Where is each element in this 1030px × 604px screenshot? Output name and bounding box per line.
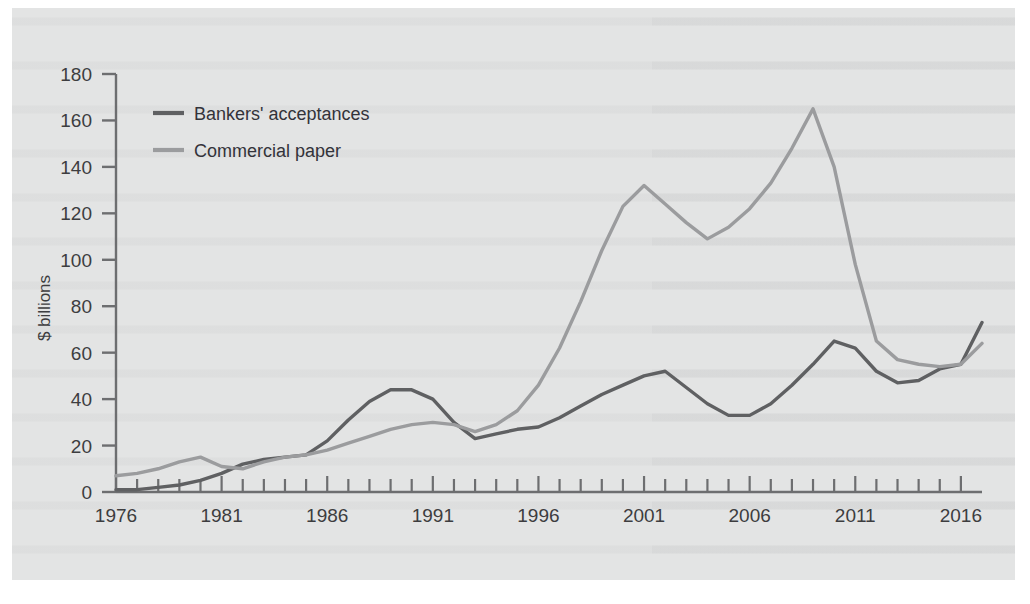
chart-panel: 020406080100120140160180 197619811986199… <box>12 8 1015 580</box>
y-tick-label: 120 <box>60 203 92 224</box>
data-series-layer <box>116 109 982 490</box>
y-tick-label: 160 <box>60 110 92 131</box>
x-tick-label: 2011 <box>835 505 876 526</box>
series-line-bankers-acceptances <box>116 322 982 489</box>
y-tick-label: 0 <box>81 482 92 503</box>
x-tick-label: 1976 <box>95 505 137 526</box>
y-axis-tick-labels: 020406080100120140160180 <box>60 64 92 503</box>
y-tick-label: 180 <box>60 64 92 85</box>
chart-legend: Bankers' acceptances Commercial paper <box>153 104 370 161</box>
x-tick-label: 2016 <box>940 505 982 526</box>
x-axis-tick-labels: 197619811986199119962001200620112016 <box>95 505 982 526</box>
y-tick-label: 100 <box>60 250 92 271</box>
y-tick-label: 20 <box>71 436 92 457</box>
y-axis-title: $ billions <box>35 275 54 341</box>
legend-label-bankers-acceptances: Bankers' acceptances <box>194 104 370 124</box>
chart-page: 020406080100120140160180 197619811986199… <box>0 0 1030 604</box>
x-tick-label: 1986 <box>306 505 348 526</box>
x-tick-label: 1991 <box>412 505 454 526</box>
line-chart-plot: 020406080100120140160180 197619811986199… <box>12 8 1015 580</box>
x-tick-label: 2006 <box>729 505 771 526</box>
y-axis-ticks <box>102 74 116 492</box>
y-tick-label: 140 <box>60 157 92 178</box>
legend-label-commercial-paper: Commercial paper <box>194 141 341 161</box>
y-tick-label: 40 <box>71 389 92 410</box>
x-tick-label: 2001 <box>623 505 665 526</box>
x-tick-label: 1996 <box>517 505 559 526</box>
x-axis-minor-ticks <box>116 476 961 492</box>
x-tick-label: 1981 <box>200 505 242 526</box>
y-tick-label: 80 <box>71 296 92 317</box>
y-tick-label: 60 <box>71 343 92 364</box>
